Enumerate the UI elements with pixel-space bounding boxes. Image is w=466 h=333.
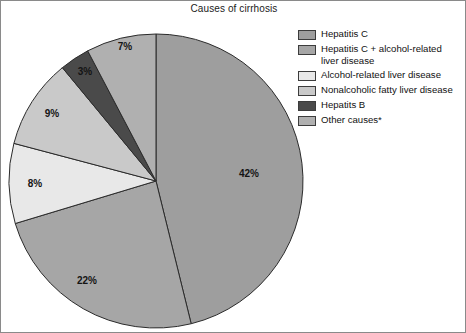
legend-color-swatch — [298, 45, 316, 55]
pie-slice-value-label: 22% — [77, 275, 97, 286]
legend-item-label: Alcohol-related liver disease — [321, 69, 441, 81]
legend-color-swatch — [298, 101, 316, 111]
legend-item-label: Hepatitis C — [321, 28, 368, 40]
legend-item-label: Nonalcoholic fatty liver disease — [321, 84, 453, 96]
legend-color-swatch — [298, 71, 316, 81]
legend-item-label: Hepatitis C + alcohol-related liver dise… — [321, 43, 442, 66]
legend-item[interactable]: Hepatitis C — [298, 28, 466, 40]
legend-item-label: Other causes* — [321, 114, 382, 126]
legend-item-label: Hepatits B — [321, 99, 365, 111]
legend-item[interactable]: Alcohol-related liver disease — [298, 69, 466, 81]
legend-item[interactable]: Nonalcoholic fatty liver disease — [298, 84, 466, 96]
legend-color-swatch — [298, 86, 316, 96]
chart-figure: Causes of cirrhosis 42%22%8%9%3%7% Hepat… — [0, 0, 466, 333]
legend-item[interactable]: Hepatitis C + alcohol-related liver dise… — [298, 43, 466, 66]
legend-item[interactable]: Other causes* — [298, 114, 466, 126]
pie-slice-value-label: 3% — [78, 66, 93, 77]
chart-legend: Hepatitis CHepatitis C + alcohol-related… — [298, 28, 466, 129]
legend-color-swatch — [298, 116, 316, 126]
pie-slice-value-label: 8% — [28, 178, 43, 189]
pie-slice-group — [9, 34, 303, 328]
pie-slice-value-label: 9% — [45, 108, 60, 119]
pie-slice-value-label: 42% — [239, 168, 259, 179]
pie-slice-value-label: 7% — [118, 41, 133, 52]
legend-color-swatch — [298, 30, 316, 40]
legend-item[interactable]: Hepatits B — [298, 99, 466, 111]
